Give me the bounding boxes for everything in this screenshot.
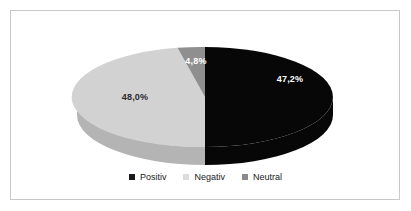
chart-legend: Positiv Negativ Neutral	[0, 172, 411, 182]
slice-label-positiv: 47,2%	[277, 74, 304, 84]
legend-item-neutral[interactable]: Neutral	[242, 172, 282, 182]
legend-label-negativ: Negativ	[194, 172, 225, 182]
legend-square-marker-negativ	[183, 174, 189, 180]
legend-item-negativ[interactable]: Negativ	[183, 172, 225, 182]
legend-item-positiv[interactable]: Positiv	[129, 172, 167, 182]
legend-label-neutral: Neutral	[253, 172, 282, 182]
legend-square-marker-neutral	[242, 174, 248, 180]
slice-label-neutral: 4,8%	[185, 56, 206, 66]
legend-square-marker-positiv	[129, 174, 135, 180]
slice-label-negativ: 48,0%	[122, 92, 149, 102]
legend-label-positiv: Positiv	[140, 172, 167, 182]
pie-chart-figure: 47,2% 48,0% 4,8% Positiv Negativ Neutral	[0, 0, 411, 211]
